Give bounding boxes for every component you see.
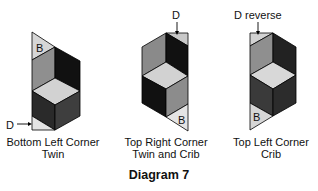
pointer-arrow	[17, 122, 32, 126]
corner-label-b: B	[253, 111, 260, 123]
diagram-title: Diagram 7	[0, 168, 318, 182]
pointer-label-d: D	[172, 9, 180, 21]
caption-line-1: Top Left Corner	[226, 136, 316, 148]
caption-line-1: Bottom Left Corner	[2, 136, 104, 148]
caption-line-2: Twin	[2, 148, 104, 160]
caption-line-2: Twin and Crib	[116, 148, 216, 160]
pointer-label-d-reverse: D reverse	[234, 9, 282, 21]
caption-panel-2: Top Right Corner Twin and Crib	[116, 136, 216, 160]
diagram-canvas: B D B D	[0, 0, 318, 191]
caption-line-1: Top Right Corner	[116, 136, 216, 148]
caption-panel-3: Top Left Corner Crib	[226, 136, 316, 160]
caption-panel-1: Bottom Left Corner Twin	[2, 136, 104, 160]
corner-label-b: B	[178, 114, 185, 126]
pointer-label-d: D	[6, 119, 14, 131]
corner-label-b: B	[36, 42, 43, 54]
caption-line-2: Crib	[226, 148, 316, 160]
